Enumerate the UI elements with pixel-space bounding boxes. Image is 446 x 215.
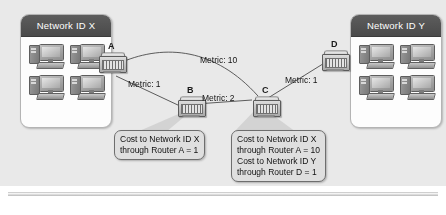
link-c-d-metric-label: Metric: 1 (285, 76, 318, 85)
callout-router-c-line-1: Cost to Network ID X (237, 134, 320, 145)
router-d-icon[interactable] (322, 50, 348, 71)
network-panel-y[interactable]: Network ID Y (350, 14, 442, 128)
workstation-icon (400, 75, 434, 101)
callout-router-c-line-3: Cost to Network ID Y (237, 156, 320, 167)
callout-router-c-line-2: through Router A = 10 (237, 145, 320, 156)
callout-router-b-line-1: Cost to Network ID X (120, 134, 199, 145)
callout-router-b[interactable]: Cost to Network ID X through Router A = … (114, 130, 205, 160)
router-b-label: B (187, 86, 194, 95)
link-b-c-metric-label: Metric: 2 (202, 94, 235, 103)
router-b-icon[interactable] (178, 96, 204, 117)
router-c-label: C (262, 86, 269, 95)
link-a-b-metric-label: Metric: 1 (128, 80, 161, 89)
network-panel-x-title: Network ID X (21, 15, 111, 37)
figure-root: Network ID X Network ID Y (0, 0, 446, 215)
router-c-icon[interactable] (253, 96, 279, 117)
workstation-icon (29, 44, 63, 70)
workstation-icon (400, 44, 434, 70)
router-a-label: A (108, 42, 115, 51)
callout-router-c-line-4: through Router D = 1 (237, 167, 320, 178)
workstation-icon (359, 75, 393, 101)
network-panel-y-hosts (351, 37, 441, 107)
router-a-icon[interactable] (99, 52, 125, 73)
network-panel-x-hosts (21, 37, 111, 107)
workstation-icon (359, 44, 393, 70)
workstation-icon (70, 75, 104, 101)
network-panel-y-title: Network ID Y (351, 15, 441, 37)
footer-divider (8, 192, 438, 196)
callout-router-b-line-2: through Router A = 1 (120, 145, 199, 156)
workstation-icon (29, 75, 63, 101)
router-d-label: D (331, 40, 338, 49)
link-a-c-metric-label: Metric: 10 (200, 56, 237, 65)
callout-router-c[interactable]: Cost to Network ID X through Router A = … (231, 130, 326, 182)
